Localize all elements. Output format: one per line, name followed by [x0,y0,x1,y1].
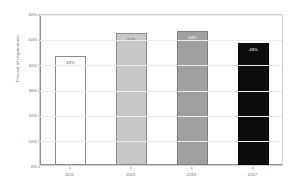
gridline [40,116,282,117]
x-axis-tick-labels: 2011201320152017 [39,168,283,180]
y-tick-label: 10% [29,138,37,143]
x-tick-label: 2011 [65,172,74,177]
bar: 53% [177,31,208,165]
y-tick-label: 20% [29,113,37,118]
gridline [40,91,282,92]
x-tick-label: 2015 [187,172,196,177]
gridline [40,15,282,16]
bar: 52% [116,33,147,165]
plot-area: 43%52%53%48% [39,14,283,166]
y-tick-label: 40% [29,62,37,67]
x-tick-mark [130,167,131,169]
y-tick-label: 0% [31,164,37,169]
y-tick-label: 60% [29,12,37,17]
gridline [40,141,282,142]
x-tick-label: 2017 [248,172,257,177]
y-axis-title: Percent of respondents [15,14,20,104]
x-tick-label: 2013 [126,172,135,177]
x-tick-mark [69,167,70,169]
bar-value-label: 48% [239,47,268,52]
y-axis-tick-labels: 0%10%20%30%40%50%60% [20,14,37,166]
x-tick-mark [191,167,192,169]
bar: 48% [238,43,269,165]
bar-chart: Percent of respondents 0%10%20%30%40%50%… [0,0,290,191]
y-tick-label: 30% [29,88,37,93]
y-tick-label: 50% [29,37,37,42]
y-tick-mark [38,166,40,167]
gridline [40,40,282,41]
gridline [40,65,282,66]
bar: 43% [55,56,86,165]
x-tick-mark [252,167,253,169]
